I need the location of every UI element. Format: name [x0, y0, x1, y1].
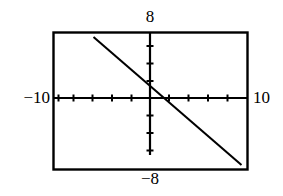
x-min-label: −10 — [8, 89, 50, 106]
x-max-label: 10 — [253, 89, 270, 106]
calculator-graph-figure: 8 −8 −10 10 — [0, 0, 283, 196]
y-min-label: −8 — [0, 170, 283, 187]
y-max-label: 8 — [0, 8, 283, 25]
